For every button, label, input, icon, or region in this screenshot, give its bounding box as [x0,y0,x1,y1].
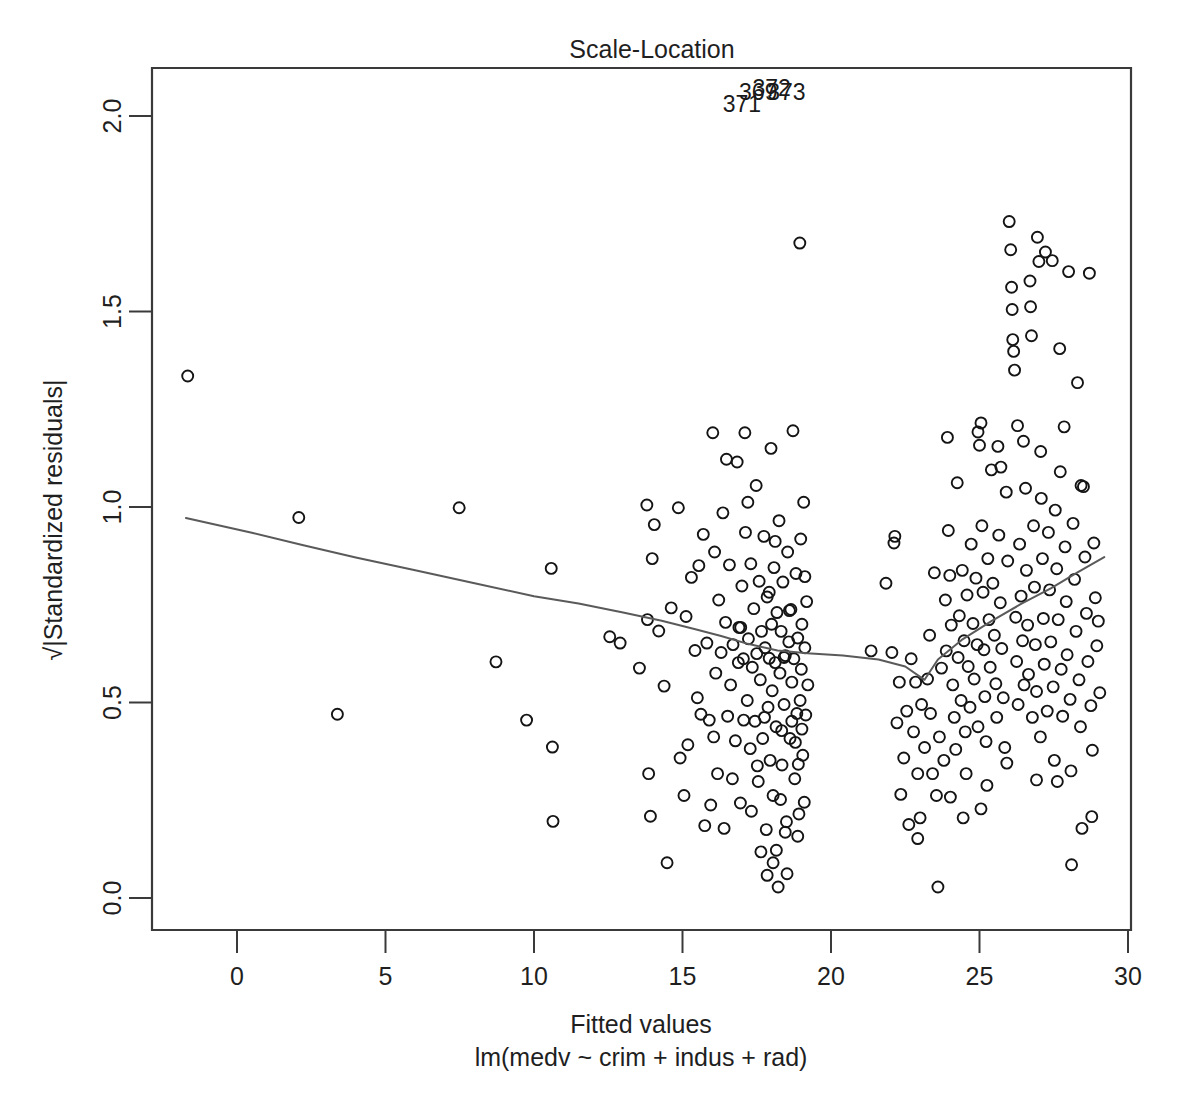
x-tick-label: 5 [379,962,393,990]
outlier-label: 373 [767,79,805,105]
scale-location-plot: 371369372373 051015202530 0.00.51.01.52.… [0,0,1189,1112]
y-tick-label: 0.5 [98,685,126,720]
x-tick-label: 25 [966,962,994,990]
y-tick-label: 2.0 [98,99,126,134]
x-tick-label: 30 [1114,962,1142,990]
y-tick-label: 1.0 [98,490,126,525]
x-tick-label: 15 [669,962,697,990]
y-tick-label: 0.0 [98,881,126,916]
x-axis-subtitle: lm(medv ~ crim + indus + rad) [475,1043,808,1071]
y-axis-title: √|Standardized residuals| [39,379,67,660]
plot-title: Scale-Location [569,35,734,63]
x-axis-title: Fitted values [570,1010,712,1038]
y-tick-label: 1.5 [98,294,126,329]
x-tick-label: 0 [230,962,244,990]
x-tick-label: 20 [817,962,845,990]
x-tick-label: 10 [520,962,548,990]
plot-page: 371369372373 051015202530 0.00.51.01.52.… [0,0,1189,1112]
